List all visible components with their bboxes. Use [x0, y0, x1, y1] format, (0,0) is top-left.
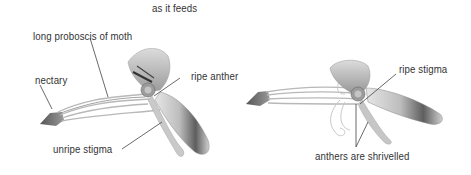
label-nectary: nectary [35, 74, 67, 86]
nectary-shape [40, 112, 64, 126]
label-unripe-stigma: unripe stigma [53, 143, 112, 155]
nectary-shape-right [246, 91, 270, 106]
left-flower-illustration [40, 48, 209, 156]
moth-body-right [366, 88, 442, 124]
label-ripe-anther: ripe anther [191, 70, 238, 82]
pollination-diagram: as it feeds long proboscis of moth necta… [0, 0, 471, 175]
label-anthers-shrivelled: anthers are shrivelled [315, 150, 409, 162]
label-ripe-stigma: ripe stigma [399, 63, 447, 75]
label-long-proboscis: long proboscis of moth [33, 30, 132, 42]
caption-as-it-feeds: as it feeds [152, 2, 197, 14]
